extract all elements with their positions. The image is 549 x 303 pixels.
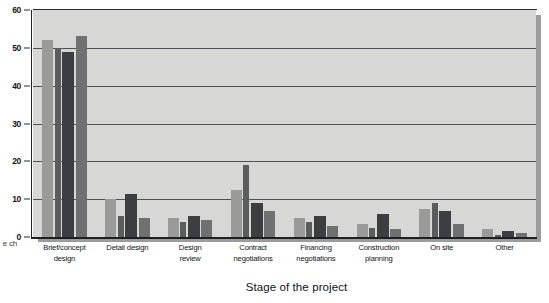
- bar-group: [285, 10, 348, 237]
- bar-group: [347, 10, 410, 237]
- bar: [357, 224, 368, 237]
- bar: [439, 211, 451, 237]
- bar: [453, 224, 464, 237]
- bar: [76, 36, 87, 237]
- bar: [314, 216, 326, 237]
- y-tick-label: 0: [17, 232, 21, 242]
- bar: [327, 226, 338, 237]
- bar: [139, 218, 150, 237]
- y-tick-label: 30: [12, 119, 21, 129]
- y-tick-label: 50: [12, 43, 21, 53]
- x-axis-labels: Brief/conceptdesignDetail designDesignre…: [33, 243, 536, 273]
- bar-group: [473, 10, 536, 237]
- y-tick-mark: [24, 123, 30, 124]
- bar: [180, 222, 186, 237]
- x-axis-title-text: Stage of the project: [202, 281, 348, 293]
- x-tick-label-line2: design: [22, 254, 107, 265]
- bar: [264, 211, 275, 237]
- y-tick-label: 40: [12, 81, 21, 91]
- bar: [231, 190, 242, 237]
- bar: [243, 165, 249, 237]
- y-tick-label: 60: [12, 5, 21, 15]
- bar: [105, 199, 116, 237]
- bar: [42, 40, 53, 237]
- y-tick-mark: [24, 161, 30, 162]
- x-axis-line: [31, 237, 537, 239]
- bar: [168, 218, 179, 237]
- bar: [125, 194, 137, 238]
- bar: [390, 229, 401, 237]
- y-tick-mark: [24, 237, 30, 238]
- y-tick-mark: [24, 85, 30, 86]
- x-tick-label-line1: Other: [462, 243, 547, 254]
- x-axis-title: Stage of the project: [0, 281, 549, 293]
- bar: [369, 228, 375, 237]
- x-tick-label-line2: planning: [336, 254, 421, 265]
- bar-group: [33, 10, 96, 237]
- bar-group: [159, 10, 222, 237]
- bar: [118, 216, 124, 237]
- bar: [62, 52, 74, 237]
- bar-series-container: [33, 10, 536, 237]
- bar-group: [410, 10, 473, 237]
- bar: [306, 222, 312, 237]
- x-tick-label: Other: [462, 243, 547, 254]
- bar: [55, 48, 61, 237]
- y-tick-mark: [24, 199, 30, 200]
- bar: [251, 203, 263, 237]
- bar: [482, 229, 493, 237]
- y-tick-label: 10: [12, 194, 21, 204]
- bar: [188, 216, 200, 237]
- bar: [377, 214, 389, 237]
- bar: [432, 203, 438, 237]
- y-axis: 0102030405060: [0, 0, 31, 250]
- y-tick-mark: [24, 10, 30, 11]
- bar-chart: e ch 0102030405060 Brief/conceptdesignDe…: [0, 0, 549, 303]
- bar: [294, 218, 305, 237]
- bar-group: [96, 10, 159, 237]
- bar: [419, 209, 430, 237]
- bar-group: [222, 10, 285, 237]
- bar: [201, 220, 212, 237]
- y-tick-mark: [24, 47, 30, 48]
- y-tick-label: 20: [12, 156, 21, 166]
